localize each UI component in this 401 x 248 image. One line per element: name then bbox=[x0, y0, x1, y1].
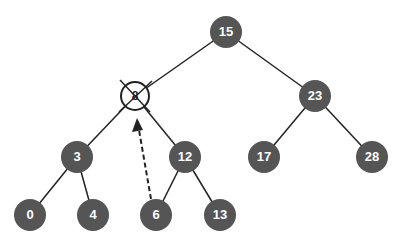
node-label-17: 17 bbox=[247, 140, 281, 174]
arrowhead-icon bbox=[132, 118, 143, 132]
replacement-arrow bbox=[132, 118, 151, 199]
tree-edges bbox=[30, 32, 372, 215]
node-label-12: 12 bbox=[168, 140, 202, 174]
node-label-28: 28 bbox=[355, 140, 389, 174]
node-label-15: 15 bbox=[209, 15, 243, 49]
node-label-13: 13 bbox=[203, 198, 237, 232]
node-label-8: 8 bbox=[118, 79, 152, 113]
node-label-4: 4 bbox=[76, 198, 110, 232]
node-label-0: 0 bbox=[13, 198, 47, 232]
tree-diagram bbox=[0, 0, 401, 248]
node-label-3: 3 bbox=[60, 140, 94, 174]
node-label-6: 6 bbox=[139, 198, 173, 232]
tree-nodes bbox=[14, 16, 388, 231]
node-label-23: 23 bbox=[298, 79, 332, 113]
